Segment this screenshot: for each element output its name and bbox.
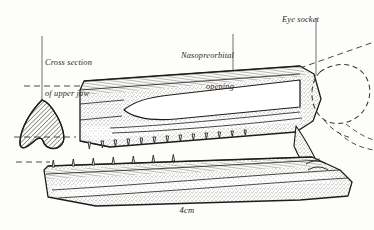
label-nasopreorbital-line2: opening [156,82,234,92]
label-cross-section: Cross section of upper jaw [45,38,92,120]
anatomical-figure: Cross section of upper jaw Nasopreorbita… [0,0,374,230]
label-cross-section-line2: of upper jaw [45,89,92,99]
label-eye-socket: Eye socket [282,15,319,25]
lower-jaw [44,154,352,206]
eye-socket [312,65,374,151]
label-nasopreorbital-opening: Nasopreorbital opening [156,31,234,113]
label-nasopreorbital-line1: Nasopreorbital [156,51,234,61]
label-scale-bar: 4cm [0,205,374,215]
label-cross-section-line1: Cross section [45,58,92,68]
